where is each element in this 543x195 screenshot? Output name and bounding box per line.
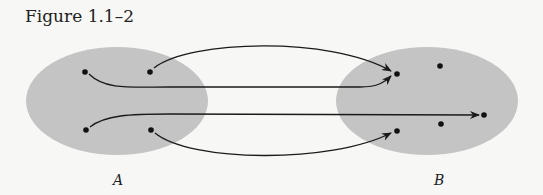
point <box>394 128 400 134</box>
arrow-a1-to-b1 <box>154 46 391 71</box>
arrow-a3-to-b4 <box>155 133 391 156</box>
set-a-ellipse <box>26 47 208 155</box>
set-a-label: A <box>111 172 123 188</box>
point <box>438 121 444 127</box>
point <box>394 71 400 77</box>
mapping-diagram: A B <box>0 0 543 195</box>
point <box>83 127 89 133</box>
point <box>82 69 88 75</box>
set-b-ellipse <box>336 47 518 155</box>
point <box>437 63 443 69</box>
point <box>148 127 154 133</box>
point <box>481 112 487 118</box>
point <box>147 69 153 75</box>
set-b-label: B <box>433 172 444 188</box>
